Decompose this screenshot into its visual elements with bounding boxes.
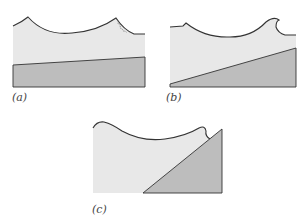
panel-b bbox=[170, 18, 296, 87]
panel-a-label: (a) bbox=[12, 91, 27, 104]
panel-c-label: (c) bbox=[92, 203, 107, 216]
panel-a bbox=[13, 17, 145, 87]
panel-c bbox=[93, 122, 222, 193]
panel-b-label: (b) bbox=[166, 91, 182, 104]
breaking-waves-diagram bbox=[0, 0, 307, 222]
